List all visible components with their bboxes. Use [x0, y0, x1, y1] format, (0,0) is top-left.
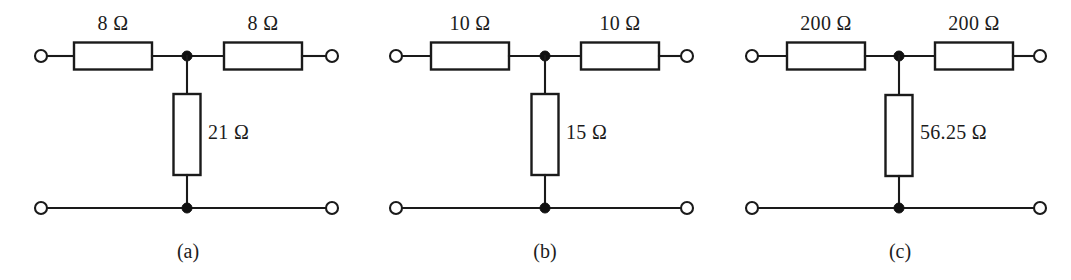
- circuit-b-bottom-right-terminal: [681, 202, 693, 214]
- circuit-a-bottom-left-terminal: [35, 202, 47, 214]
- circuit-drawing-canvas: [0, 0, 1071, 280]
- circuit-b-series-left-resistor: [431, 43, 509, 70]
- circuit-c-series-right-resistor: [935, 43, 1013, 70]
- circuit-c-bottom-left-terminal: [746, 202, 758, 214]
- circuit-c-shunt-label: 56.25 Ω: [920, 121, 987, 144]
- circuit-b-series-left-label: 10 Ω: [449, 12, 490, 35]
- circuit-b-bottom-junction-node: [540, 203, 550, 213]
- circuit-a-series-left-resistor: [74, 43, 152, 70]
- circuit-a-top-left-terminal: [35, 50, 47, 62]
- circuit-b-top-right-terminal: [681, 50, 693, 62]
- circuit-a-shunt-label: 21 Ω: [208, 121, 249, 144]
- circuit-b-shunt-resistor: [532, 94, 559, 175]
- circuit-a-series-right-resistor: [224, 43, 302, 70]
- circuit-c-top-right-terminal: [1034, 50, 1046, 62]
- circuit-b-bottom-left-terminal: [390, 202, 402, 214]
- circuit-b-series-right-label: 10 Ω: [599, 12, 640, 35]
- circuit-c-caption: (c): [889, 240, 911, 263]
- circuit-a-series-left-label: 8 Ω: [98, 12, 129, 35]
- circuit-a-caption: (a): [177, 240, 199, 263]
- circuit-c-shunt-resistor: [886, 95, 913, 176]
- circuit-c-series-left-resistor: [787, 43, 865, 70]
- circuit-b-caption: (b): [533, 240, 556, 263]
- circuit-c-top-left-terminal: [746, 50, 758, 62]
- circuit-a-bottom-right-terminal: [326, 202, 338, 214]
- circuit-figure: 8 Ω 8 Ω 21 Ω (a) 10 Ω 10 Ω 15 Ω (b) 200 …: [0, 0, 1071, 280]
- circuit-a-bottom-junction-node: [182, 203, 192, 213]
- circuit-c-series-left-label: 200 Ω: [800, 12, 851, 35]
- circuit-a-shunt-resistor: [174, 94, 201, 175]
- circuit-b-graphics: [390, 43, 693, 215]
- circuit-b-top-left-terminal: [390, 50, 402, 62]
- circuit-b-shunt-label: 15 Ω: [566, 121, 607, 144]
- circuit-b-series-right-resistor: [581, 43, 659, 70]
- circuit-c-bottom-right-terminal: [1034, 202, 1046, 214]
- circuit-c-bottom-junction-node: [894, 203, 904, 213]
- circuit-c-series-right-label: 200 Ω: [948, 12, 999, 35]
- circuit-a-series-right-label: 8 Ω: [248, 12, 279, 35]
- circuit-a-top-right-terminal: [326, 50, 338, 62]
- circuit-c-graphics: [746, 43, 1046, 215]
- circuit-a-graphics: [35, 43, 338, 215]
